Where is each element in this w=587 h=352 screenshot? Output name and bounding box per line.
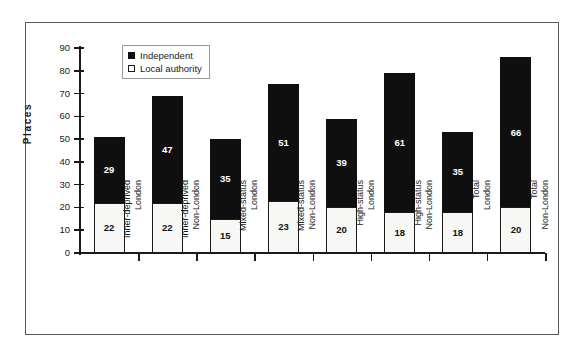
- bar-segment-local-authority[interactable]: 22: [152, 203, 183, 253]
- x-axis-category-label: Mixed-statusNon-London: [296, 180, 322, 266]
- y-axis-tick-label-wrap: 20: [40, 202, 70, 212]
- x-axis-category-label-line: Non-London: [424, 180, 435, 266]
- bar-segment-value: 22: [104, 223, 115, 233]
- bar-stack[interactable]: 2351: [268, 48, 299, 253]
- x-axis-category-label-line: Mixed-status: [238, 180, 249, 266]
- legend-swatch-independent: [128, 52, 135, 59]
- bar-segment-value: 20: [336, 225, 347, 235]
- bar-segment-value: 66: [511, 128, 522, 138]
- y-axis-tick-label: 40: [42, 157, 70, 167]
- x-axis-category-label: Inner-deprivedNon-London: [180, 180, 206, 266]
- bar-segment-independent[interactable]: 35: [442, 132, 473, 212]
- x-axis-category-label-line: Non-London: [191, 180, 202, 266]
- x-axis-category-label: Inner-deprivedLondon: [122, 180, 148, 266]
- y-axis-tick-label-wrap: 10: [40, 225, 70, 235]
- bar-segment-value: 39: [336, 158, 347, 168]
- bar-segment-value: 18: [453, 228, 464, 238]
- x-axis-category-label-line: London: [133, 180, 144, 266]
- bar-segment-value: 29: [104, 165, 115, 175]
- x-axis-category-label-line: Total: [529, 180, 540, 266]
- bar-segment-value: 47: [162, 145, 173, 155]
- x-axis-category-label-line: Non-London: [307, 180, 318, 266]
- y-axis-tick-label-wrap: 90: [40, 43, 70, 53]
- bar-stack[interactable]: 1535: [210, 48, 241, 253]
- bar-stack[interactable]: 2229: [94, 48, 125, 253]
- y-axis-tick-label: 10: [42, 225, 70, 235]
- bar-segment-value: 23: [278, 222, 289, 232]
- bar-stack[interactable]: 1861: [384, 48, 415, 253]
- bar-segment-independent[interactable]: 47: [152, 96, 183, 203]
- bar-segment-local-authority[interactable]: 18: [442, 212, 473, 253]
- y-axis-tick-label-wrap: 60: [40, 111, 70, 121]
- x-axis-category-label: High-statusNon-London: [413, 180, 439, 266]
- bar-stack[interactable]: 2039: [326, 48, 357, 253]
- bar-segment-local-authority[interactable]: 23: [268, 201, 299, 253]
- x-axis-category-label: Mixed-statusLondon: [238, 180, 264, 266]
- figure-canvas: Places 9080706050403020100 2229224715352…: [0, 0, 587, 352]
- x-axis-category-label-line: Non-London: [540, 180, 551, 266]
- bar-segment-value: 15: [220, 231, 231, 241]
- bar-segment-value: 18: [394, 228, 405, 238]
- y-axis-tick-label: 20: [42, 202, 70, 212]
- x-axis-category-label-line: Inner-deprived: [122, 180, 133, 266]
- bar-segment-local-authority[interactable]: 18: [384, 212, 415, 253]
- x-axis-category-label-line: High-status: [355, 180, 366, 266]
- y-axis-tick-label-wrap: 0: [40, 248, 70, 258]
- bar-segment-value: 22: [162, 223, 173, 233]
- x-axis-category-label-line: London: [482, 180, 493, 266]
- bar-segment-independent[interactable]: 35: [210, 139, 241, 219]
- y-axis-tick-label: 80: [42, 66, 70, 76]
- x-axis-category-label-line: Inner-deprived: [180, 180, 191, 266]
- legend-item[interactable]: Independent: [128, 49, 202, 62]
- legend-item-label: Local authority: [140, 64, 202, 74]
- y-axis-tick-label: 60: [42, 111, 70, 121]
- y-axis-tick-label: 30: [42, 180, 70, 190]
- bar-segment-value: 51: [278, 138, 289, 148]
- y-axis-tick-label: 50: [42, 134, 70, 144]
- y-axis-title: Places: [22, 79, 33, 169]
- y-axis-tick-label-wrap: 40: [40, 157, 70, 167]
- bar-segment-independent[interactable]: 29: [94, 137, 125, 203]
- bar-segment-independent[interactable]: 51: [268, 84, 299, 200]
- x-axis-category-label-line: London: [249, 180, 260, 266]
- bar-segment-independent[interactable]: 61: [384, 73, 415, 212]
- chart-legend: IndependentLocal authority: [122, 45, 210, 79]
- y-axis-tick-label-wrap: 80: [40, 66, 70, 76]
- x-axis-category-label-line: High-status: [413, 180, 424, 266]
- y-axis-tick-label-wrap: 30: [40, 180, 70, 190]
- bar-segment-independent[interactable]: 66: [500, 57, 531, 207]
- bar-stack[interactable]: 2066: [500, 48, 531, 253]
- bar-segment-local-authority[interactable]: 20: [326, 207, 357, 253]
- bar-segment-value: 61: [394, 138, 405, 148]
- x-axis-category-label: TotalNon-London: [529, 180, 555, 266]
- legend-swatch-local-authority: [128, 65, 135, 72]
- legend-item-label: Independent: [140, 51, 193, 61]
- x-axis-category-label: High-statusLondon: [355, 180, 381, 266]
- x-axis-category-label-line: Mixed-status: [296, 180, 307, 266]
- bar-segment-local-authority[interactable]: 15: [210, 219, 241, 253]
- x-axis-category-label: TotalLondon: [471, 180, 497, 266]
- legend-item[interactable]: Local authority: [128, 62, 202, 75]
- y-axis-tick-label: 70: [42, 89, 70, 99]
- bar-segment-independent[interactable]: 39: [326, 119, 357, 208]
- bar-stack[interactable]: 1835: [442, 48, 473, 253]
- bar-segment-local-authority[interactable]: 22: [94, 203, 125, 253]
- bar-segment-value: 35: [220, 174, 231, 184]
- y-axis-tick-label: 0: [42, 248, 70, 258]
- bar-segment-value: 20: [511, 225, 522, 235]
- y-axis-tick-label: 90: [42, 43, 70, 53]
- x-axis-category-label-line: Total: [471, 180, 482, 266]
- x-axis-category-label-line: London: [366, 180, 377, 266]
- bar-segment-local-authority[interactable]: 20: [500, 207, 531, 253]
- y-axis-tick-label-wrap: 70: [40, 89, 70, 99]
- y-axis-tick-label-wrap: 50: [40, 134, 70, 144]
- bar-segment-value: 35: [453, 167, 464, 177]
